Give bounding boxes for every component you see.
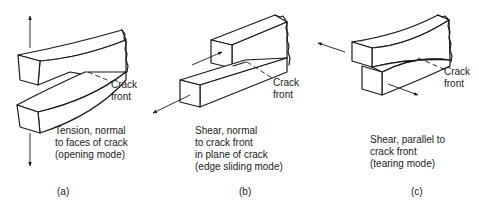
- panel-c-drawing: [318, 15, 452, 95]
- crack-label-line: front: [444, 78, 470, 90]
- upper-arm-end-face: [18, 55, 40, 85]
- panel-b-drawing: [153, 15, 290, 113]
- panel-c-description: Shear, parallel to crack front (tearing …: [370, 134, 445, 170]
- description-line: (edge sliding mode): [195, 161, 283, 173]
- panel-a-letter: (a): [57, 186, 69, 198]
- panel-b-crack-front-label: Crack front: [273, 77, 299, 101]
- description-line: Tension, normal: [55, 125, 128, 137]
- description-line: (opening mode): [55, 149, 128, 161]
- shear-arrow-out-icon: [153, 95, 190, 113]
- crack-label-line: front: [273, 89, 299, 101]
- description-line: Shear, parallel to: [370, 134, 445, 146]
- description-line: to crack front: [195, 137, 283, 149]
- fracture-modes-diagram: [0, 0, 479, 206]
- lower-block-end-face: [180, 80, 200, 107]
- crack-label-line: Crack: [111, 79, 137, 91]
- panel-a-crack-front-label: Crack front: [111, 79, 137, 103]
- panel-a-description: Tension, normal to faces of crack (openi…: [55, 125, 128, 161]
- description-line: (tearing mode): [370, 158, 445, 170]
- description-line: in plane of crack: [195, 149, 283, 161]
- panel-b-letter: (b): [239, 186, 251, 198]
- crack-label-line: Crack: [444, 66, 470, 78]
- tear-arrow-left-icon: [318, 43, 345, 52]
- description-line: Shear, normal: [195, 125, 283, 137]
- crack-label-line: Crack: [273, 77, 299, 89]
- description-line: to faces of crack: [55, 137, 128, 149]
- description-line: crack front: [370, 146, 445, 158]
- panel-b-description: Shear, normal to crack front in plane of…: [195, 125, 283, 173]
- panel-c-letter: (c): [411, 186, 423, 198]
- panel-c-crack-front-label: Crack front: [444, 66, 470, 90]
- upper-block-end-face: [211, 40, 232, 68]
- crack-label-line: front: [111, 91, 137, 103]
